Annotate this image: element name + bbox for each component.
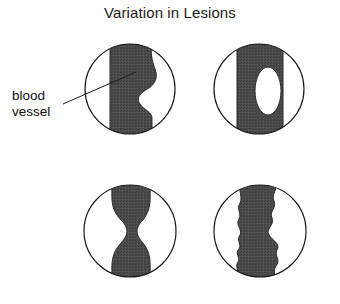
panel-eccentric-lesion <box>85 40 175 140</box>
lesion-variation-figure: Variation in Lesions blood vessel <box>0 0 340 304</box>
panel-near-total-occlusion <box>214 40 304 140</box>
panel-irregular-lesion <box>214 184 306 286</box>
plaque-shape-hourglass <box>112 182 150 282</box>
panel-2-contents <box>237 40 283 140</box>
panel-1-contents <box>110 40 156 140</box>
panel-concentric-stenosis <box>84 182 176 282</box>
panel-4-contents <box>237 184 278 286</box>
plaque-shape-irregular <box>237 184 278 286</box>
plaque-shape-eccentric <box>110 40 156 140</box>
residual-lumen <box>255 67 281 115</box>
lesion-diagram <box>0 0 340 304</box>
panel-3-contents <box>112 182 150 282</box>
